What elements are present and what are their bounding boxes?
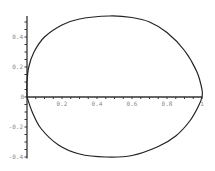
chart-plot: 0.20.40.60.810.40.20-0.2-0.4 [0, 0, 215, 171]
origin-label: 0 [20, 93, 24, 100]
x-tick-label: 0.2 [57, 100, 68, 107]
y-tick-label: -0.4 [9, 153, 24, 160]
y-tick-label: 0.2 [12, 63, 23, 70]
x-tick-label: 0.6 [127, 100, 138, 107]
y-tick-label: -0.2 [9, 123, 24, 130]
y-tick-label: 0.4 [12, 33, 23, 40]
x-tick-label: 0.8 [162, 100, 173, 107]
data-curve [27, 16, 203, 157]
x-tick-label: 0.4 [92, 100, 103, 107]
